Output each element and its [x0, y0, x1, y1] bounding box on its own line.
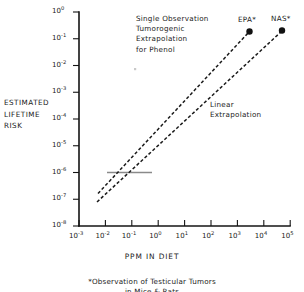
y-tick-label: 10-2	[52, 61, 66, 69]
annotation-line: Extrapolation	[136, 34, 209, 44]
scan-artifact-speck	[134, 68, 136, 70]
footnote-line-clipped: in Mice & Rats	[0, 287, 304, 292]
x-tick-label: 10-1	[122, 232, 136, 240]
y-tick-label: 10-3	[52, 87, 66, 95]
chart-footnote: *Observation of Testicular Tumors in Mic…	[0, 277, 304, 292]
linear-extrapolation-annotation: Linear Extrapolation	[210, 100, 261, 120]
x-tick-label: 100	[149, 232, 162, 240]
x-tick-label: 105	[281, 232, 294, 240]
y-axis-title-line: LIFETIME	[4, 109, 49, 121]
nas-point-label: NAS*	[271, 14, 291, 23]
y-tick-label: 10-6	[52, 168, 66, 176]
single-observation-annotation: Single Observation Tumorogenic Extrapola…	[136, 14, 209, 55]
y-axis-title-line: ESTIMATED	[4, 97, 49, 109]
x-axis-ticks	[79, 220, 290, 226]
y-axis-ticks	[73, 12, 79, 226]
x-tick-label: 103	[228, 232, 241, 240]
y-axis-title: ESTIMATED LIFETIME RISK	[4, 97, 49, 132]
x-tick-label: 10-3	[69, 232, 83, 240]
nas-endpoint-marker	[279, 27, 285, 33]
x-axis-title: PPM IN DIET	[0, 252, 304, 261]
y-axis-title-line: RISK	[4, 120, 49, 132]
y-tick-label: 10-4	[52, 114, 66, 122]
epa-point-label: EPA*	[238, 15, 256, 24]
y-tick-label: 10-5	[52, 141, 66, 149]
annotation-line: Single Observation	[136, 14, 209, 24]
footnote-line: *Observation of Testicular Tumors	[0, 277, 304, 287]
y-tick-label: 100	[52, 7, 65, 15]
x-tick-label: 102	[202, 232, 215, 240]
y-tick-label: 10-7	[52, 194, 66, 202]
epa-endpoint-marker	[246, 28, 252, 34]
x-tick-label: 101	[176, 232, 189, 240]
chart-figure: 100 10-1 10-2 10-3 10-4 10-5 10-6 10-7 1…	[0, 0, 304, 292]
y-tick-label: 10-1	[52, 34, 66, 42]
annotation-line: Extrapolation	[210, 110, 261, 120]
annotation-line: for Phenol	[136, 45, 209, 55]
x-tick-label: 10-2	[95, 232, 109, 240]
x-tick-label: 104	[255, 232, 268, 240]
y-tick-label: 10-8	[52, 221, 66, 229]
annotation-line: Linear	[210, 100, 261, 110]
annotation-line: Tumorogenic	[136, 24, 209, 34]
